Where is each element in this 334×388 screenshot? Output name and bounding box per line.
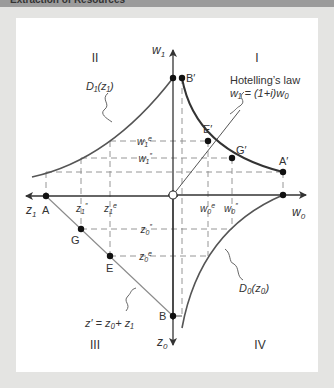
z0-axis-label: z0: [156, 335, 168, 351]
guide-lines: [46, 78, 283, 316]
point-g-label: G: [71, 234, 80, 246]
w1pp-label: w1″: [138, 152, 152, 165]
point-a-label: A: [42, 204, 50, 216]
d1-label: D₁(z₁): [86, 80, 114, 92]
point-b-prime-label: B′: [186, 72, 195, 84]
point-a-prime-label: A′: [279, 155, 288, 167]
hotelling-title: Hotelling’s law: [230, 74, 300, 86]
z0e-label: z0e: [138, 250, 152, 263]
four-quadrant-diagram: II I III IV w1 w0 z1 z0 B′ E′ G′ A′ A G …: [0, 0, 334, 388]
point-g-prime-label: G′: [236, 144, 247, 156]
budget-label: z′ = z₀+ z₁: [84, 317, 134, 329]
z1pp-label: z1″: [75, 202, 88, 215]
quadrant-ii-label: II: [92, 51, 99, 65]
quadrant-iv-label: IV: [254, 338, 265, 352]
w1-axis-label: w1: [152, 43, 165, 59]
w0pp-label: w0″: [224, 202, 238, 215]
quadrant-i-label: I: [255, 51, 258, 65]
point-e-prime-label: E′: [203, 123, 212, 135]
d1-curve: [32, 78, 173, 177]
origin-marker: [169, 191, 177, 199]
hotelling-equation: w₁ = (1+i)w₀: [230, 87, 289, 99]
point-e-label: E: [106, 262, 113, 274]
z1-axis-label: z1: [25, 203, 36, 219]
z0pp-label: z0″: [140, 223, 153, 236]
quadrant-iii-label: III: [90, 338, 100, 352]
w0-axis-label: w0: [292, 205, 306, 221]
w1e-label: w1e: [137, 135, 152, 148]
point-b-label: B: [159, 310, 166, 322]
d0-label: D₀(z₀): [239, 282, 269, 294]
